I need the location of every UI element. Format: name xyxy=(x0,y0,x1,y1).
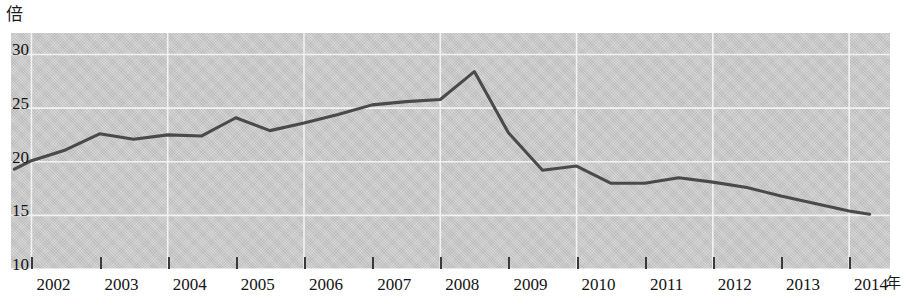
plot-area xyxy=(11,33,890,269)
series-line xyxy=(14,72,869,215)
y-axis-tick-label: 15 xyxy=(12,202,29,219)
x-axis-tick-mark xyxy=(849,257,851,269)
y-axis-tick-label: 20 xyxy=(12,149,29,166)
x-axis-tick-label: 2007 xyxy=(377,276,411,293)
x-axis-tick-mark xyxy=(713,257,715,269)
x-axis-tick-mark xyxy=(577,257,579,269)
x-axis-tick-label: 2014 xyxy=(854,276,888,293)
x-axis-tick-mark xyxy=(440,257,442,269)
x-axis-tick-mark xyxy=(304,257,306,269)
x-axis-tick-mark xyxy=(236,257,238,269)
x-axis-tick-label: 2004 xyxy=(173,276,207,293)
x-axis-tick-label: 2006 xyxy=(309,276,343,293)
y-axis-tick-label: 25 xyxy=(12,95,29,112)
x-axis-tick-label: 2012 xyxy=(718,276,752,293)
x-axis-tick-label: 2010 xyxy=(582,276,616,293)
y-axis-tick-label: 30 xyxy=(12,41,29,58)
line-chart: 倍 3025201510 200220032004200520062007200… xyxy=(0,0,913,307)
x-axis-tick-label: 2009 xyxy=(513,276,547,293)
x-axis-tick-label: 2013 xyxy=(786,276,820,293)
x-axis-tick-label: 2011 xyxy=(650,276,683,293)
x-axis-tick-label: 2005 xyxy=(241,276,275,293)
x-axis-tick-mark xyxy=(100,257,102,269)
y-axis-tick-label: 10 xyxy=(12,256,29,273)
x-axis-tick-label: 2008 xyxy=(445,276,479,293)
x-axis-tick-mark xyxy=(781,257,783,269)
y-axis-unit-label: 倍 xyxy=(6,2,23,28)
x-axis-tick-mark xyxy=(168,257,170,269)
x-axis-tick-mark xyxy=(31,257,33,269)
x-axis-tick-mark xyxy=(645,257,647,269)
x-axis-tick-mark xyxy=(372,257,374,269)
series-line-group xyxy=(11,33,890,269)
x-axis-tick-label: 2003 xyxy=(105,276,139,293)
x-axis-unit-label: 年 xyxy=(886,276,901,291)
x-axis-tick-label: 2002 xyxy=(36,276,70,293)
x-axis-tick-mark xyxy=(508,257,510,269)
